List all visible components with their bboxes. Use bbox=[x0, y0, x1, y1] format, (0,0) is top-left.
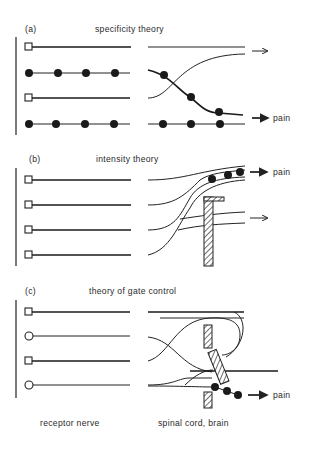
nerve-dot-icon bbox=[54, 69, 62, 77]
receptor-nerves-c bbox=[25, 308, 130, 389]
pain-label-c: pain bbox=[273, 390, 290, 400]
pain-theories-diagram: (a) specificity theory bbox=[0, 0, 310, 449]
central-pathways-b bbox=[148, 166, 245, 255]
footer-spinal-cord-brain: spinal cord, brain bbox=[158, 418, 229, 428]
panel-b: (b) intensity theory bbox=[16, 154, 290, 266]
pain-label-a: pain bbox=[273, 113, 290, 123]
panel-c: (c) theory of gate control bbox=[16, 286, 290, 408]
nerve-dot-icon bbox=[25, 69, 33, 77]
receptor-nerves-b bbox=[25, 176, 131, 258]
receptor-circle-icon bbox=[25, 381, 33, 389]
nerve-dot-icon bbox=[110, 120, 118, 128]
nerve-dot-icon bbox=[81, 120, 89, 128]
receptor-square-icon bbox=[25, 357, 32, 364]
gate-bar-b bbox=[204, 197, 224, 266]
receptor-square-icon bbox=[25, 201, 32, 208]
footer-receptor-nerve: receptor nerve bbox=[40, 418, 100, 428]
panel-a-label: (a) bbox=[25, 24, 36, 34]
central-pathways-a bbox=[148, 47, 245, 128]
panel-c-label: (c) bbox=[25, 286, 36, 296]
receptor-square-icon bbox=[25, 251, 32, 258]
panel-c-title: theory of gate control bbox=[89, 286, 176, 296]
panel-b-label: (b) bbox=[29, 154, 40, 164]
receptor-circle-icon bbox=[25, 332, 33, 340]
receptor-nerves-a bbox=[25, 43, 131, 128]
gate-c bbox=[204, 325, 229, 408]
pain-label-b: pain bbox=[273, 167, 290, 177]
receptor-square-icon bbox=[25, 176, 32, 183]
nerve-dot-icon bbox=[82, 69, 90, 77]
receptor-square-icon bbox=[25, 226, 32, 233]
nerve-dot-icon bbox=[52, 120, 60, 128]
receptor-square-icon bbox=[25, 308, 32, 315]
nerve-dot-icon bbox=[25, 120, 33, 128]
panel-b-title: intensity theory bbox=[96, 154, 159, 164]
nerve-dot-icon bbox=[111, 69, 119, 77]
receptor-square-icon bbox=[25, 43, 32, 50]
receptor-square-icon bbox=[25, 94, 32, 101]
panel-a: (a) specificity theory bbox=[16, 24, 290, 135]
panel-a-title: specificity theory bbox=[95, 24, 164, 34]
